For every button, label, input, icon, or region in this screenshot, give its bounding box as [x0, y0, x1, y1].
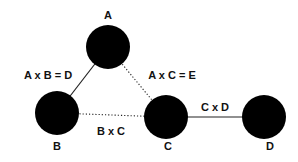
node-a	[86, 25, 130, 69]
nodes-group	[35, 25, 286, 139]
node-label-c: C	[164, 140, 172, 152]
edge-label-c-d: C x D	[201, 101, 229, 113]
edge-label-b-c: B x C	[97, 125, 125, 137]
edge-label-a-b: A x B = D	[24, 69, 72, 81]
node-b	[35, 91, 79, 135]
node-c	[144, 95, 188, 139]
edge-label-a-c: A x C = E	[148, 69, 196, 81]
node-d	[242, 95, 286, 139]
node-label-b: B	[53, 140, 61, 152]
node-label-d: D	[266, 140, 274, 152]
node-label-a: A	[104, 9, 112, 21]
graph-diagram: A x B = DA x C = EB x CC x DABCD	[0, 0, 298, 162]
